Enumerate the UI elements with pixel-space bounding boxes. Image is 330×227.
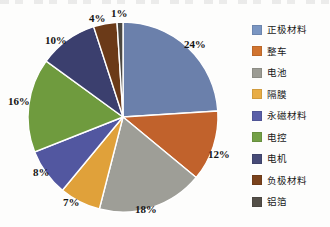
legend-item-label: 铝箔 xyxy=(267,197,287,207)
pie-slice-percent-label: 1% xyxy=(111,7,127,19)
legend-swatch-icon xyxy=(252,46,262,56)
pie-slice-percent-label: 18% xyxy=(135,203,157,215)
legend-item-label: 电控 xyxy=(267,133,287,143)
legend-item[interactable]: 永磁材料 xyxy=(252,105,330,127)
pie-chart-figure: 24%12%18%7%8%16%10%4%1% 正极材料 整车 电池 隔膜 永磁… xyxy=(0,0,330,227)
legend-swatch-icon xyxy=(252,175,262,185)
legend-item-label: 整车 xyxy=(267,47,287,57)
legend-swatch-icon xyxy=(252,89,262,99)
legend-item[interactable]: 铝箔 xyxy=(252,191,330,213)
pie-slice[interactable] xyxy=(123,22,218,117)
legend-swatch-icon xyxy=(252,25,262,35)
legend-item[interactable]: 整车 xyxy=(252,41,330,63)
pie-slice-percent-label: 7% xyxy=(63,196,79,208)
legend-item[interactable]: 电控 xyxy=(252,127,330,149)
chart-legend: 正极材料 整车 电池 隔膜 永磁材料 电控 电机 负极材料 xyxy=(252,19,330,213)
legend-item[interactable]: 电机 xyxy=(252,148,330,170)
legend-item[interactable]: 电池 xyxy=(252,62,330,84)
pie-slice-percent-label: 8% xyxy=(33,166,49,178)
legend-swatch-icon xyxy=(252,111,262,121)
legend-swatch-icon xyxy=(252,68,262,78)
legend-swatch-icon xyxy=(252,132,262,142)
legend-item[interactable]: 负极材料 xyxy=(252,170,330,192)
pie-plot-area: 24%12%18%7%8%16%10%4%1% xyxy=(0,0,250,227)
legend-item-label: 永磁材料 xyxy=(267,111,307,121)
legend-item-label: 隔膜 xyxy=(267,90,287,100)
legend-swatch-icon xyxy=(252,154,262,164)
legend-item-label: 电机 xyxy=(267,154,287,164)
pie-slice-percent-label: 24% xyxy=(184,38,206,50)
pie-slices xyxy=(28,22,218,212)
pie-slice-percent-label: 4% xyxy=(89,12,105,24)
pie-svg xyxy=(0,0,250,227)
pie-slice-percent-label: 10% xyxy=(45,34,67,46)
pie-slice-percent-label: 12% xyxy=(208,148,230,160)
legend-swatch-icon xyxy=(252,197,262,207)
legend-item-label: 正极材料 xyxy=(267,25,307,35)
legend-item-label: 电池 xyxy=(267,68,287,78)
legend-item[interactable]: 正极材料 xyxy=(252,19,330,41)
legend-item-label: 负极材料 xyxy=(267,176,307,186)
legend-item[interactable]: 隔膜 xyxy=(252,84,330,106)
pie-slice-percent-label: 16% xyxy=(8,95,30,107)
